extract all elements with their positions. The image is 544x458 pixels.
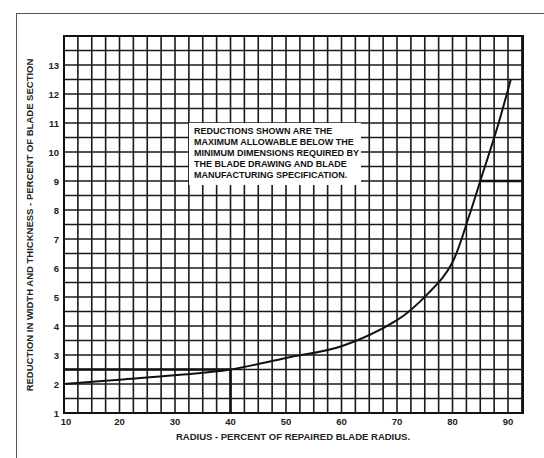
x-tick-label: 30 <box>170 416 181 427</box>
y-axis-ticks: 12345678910111213 <box>48 60 59 419</box>
y-tick-label: 1 <box>54 408 60 419</box>
annotation-line: THE BLADE DRAWING AND BLADE <box>194 159 347 169</box>
x-tick-label: 40 <box>225 416 236 427</box>
chart: REDUCTIONS SHOWN ARE THEMAXIMUM ALLOWABL… <box>0 0 544 458</box>
annotation-line: MAXIMUM ALLOWABLE BELOW THE <box>194 137 354 147</box>
y-tick-label: 2 <box>54 379 59 390</box>
y-tick-label: 12 <box>48 89 59 100</box>
x-axis-title: RADIUS - PERCENT OF REPAIRED BLADE RADIU… <box>176 431 410 442</box>
x-tick-label: 90 <box>503 416 514 427</box>
y-tick-label: 8 <box>54 205 59 216</box>
x-tick-label: 70 <box>392 416 403 427</box>
x-tick-label: 10 <box>61 416 72 427</box>
annotation-line: REDUCTIONS SHOWN ARE THE <box>194 126 332 136</box>
y-tick-label: 11 <box>49 118 60 129</box>
annotation-line: MANUFACTURING SPECIFICATION. <box>194 170 347 180</box>
y-tick-label: 9 <box>54 176 59 187</box>
y-tick-label: 4 <box>54 321 60 332</box>
y-tick-label: 7 <box>54 234 59 245</box>
y-axis-title: REDUCTION IN WIDTH AND THICKNESS - PERCE… <box>24 59 35 392</box>
y-tick-label: 10 <box>48 147 59 158</box>
x-tick-label: 60 <box>336 416 347 427</box>
x-tick-label: 80 <box>447 416 458 427</box>
annotation-line: MINIMUM DIMENSIONS REQUIRED BY <box>194 148 359 158</box>
x-tick-label: 50 <box>281 416 292 427</box>
x-tick-label: 20 <box>114 416 125 427</box>
y-tick-label: 6 <box>54 263 59 274</box>
x-axis-ticks: 102030405060708090 <box>61 416 514 427</box>
y-tick-label: 3 <box>54 350 59 361</box>
y-tick-label: 13 <box>48 60 59 71</box>
y-tick-label: 5 <box>54 292 60 303</box>
